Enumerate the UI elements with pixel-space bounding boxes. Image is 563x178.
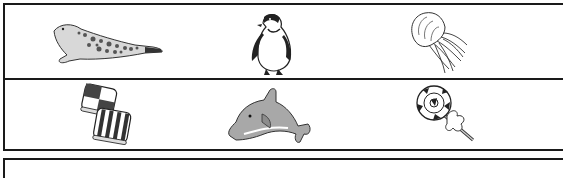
next-picture-row — [3, 158, 563, 178]
candy-icon — [5, 80, 185, 152]
picture-row-2: Candies — [5, 78, 563, 152]
picture-grid: Seal Penguin — [3, 3, 563, 151]
dolphin-icon — [188, 80, 368, 152]
cell-candies: Candies — [5, 80, 185, 152]
seal-icon — [5, 5, 185, 77]
cell-lollipop: Lollipop — [371, 80, 551, 152]
cell-jellyfish: Jellyfish — [371, 5, 551, 77]
jellyfish-icon — [371, 5, 551, 77]
lollipop-icon — [371, 80, 551, 152]
picture-row-1: Seal Penguin — [5, 5, 563, 77]
penguin-icon — [188, 5, 368, 77]
cell-dolphin: Dolphin — [188, 80, 368, 152]
cell-seal: Seal — [5, 5, 185, 77]
cell-penguin: Penguin — [188, 5, 368, 77]
